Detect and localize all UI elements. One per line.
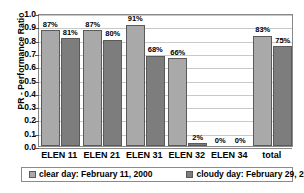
x-axis-category-labels: ELEN 11ELEN 21ELEN 31ELEN 32ELEN 34total [38, 150, 293, 164]
y-axis-tick-labels: 1.00.90.80.70.60.50.40.30.20.10.0 [12, 14, 36, 147]
y-axis-tick-label: 0.7 [12, 50, 36, 59]
bar-cloudy [273, 46, 292, 146]
y-axis-tick-label: 1.0 [12, 10, 36, 19]
chart-legend: clear day: February 11, 2000 cloudy day:… [21, 167, 293, 182]
x-axis-label: ELEN 31 [123, 150, 166, 160]
legend-entry-clear-day: clear day: February 11, 2000 [29, 170, 152, 179]
y-axis-tick-label: 0.5 [12, 76, 36, 85]
x-axis-label: ELEN 21 [81, 150, 124, 160]
x-axis-label: total [251, 150, 294, 160]
y-axis-tick-label: 0.4 [12, 90, 36, 99]
legend-entry-cloudy-day: cloudy day: February 29, 2000 [186, 170, 304, 179]
legend-label-clear-day: clear day: February 11, 2000 [39, 170, 152, 179]
bars-layer: 87%81%87%80%91%68%66%2%0%0%83%75% [39, 15, 292, 146]
bar-value-label: 83% [249, 26, 276, 34]
y-axis-tick-label: 0.2 [12, 116, 36, 125]
x-axis-label: ELEN 34 [208, 150, 251, 160]
bar-chart: PR - Performance Ratio 1.00.90.80.70.60.… [0, 0, 304, 193]
bar-clear [253, 36, 272, 146]
y-axis-tick-label: 0.1 [12, 129, 36, 138]
x-axis-label: ELEN 32 [166, 150, 209, 160]
tick-mark [35, 148, 39, 149]
legend-swatch-icon-cloudy-day [186, 171, 193, 178]
bar-group: 83%75% [39, 15, 294, 146]
y-axis-tick-label: 0.9 [12, 23, 36, 32]
plot-area: 87%81%87%80%91%68%66%2%0%0%83%75% [38, 14, 293, 147]
y-axis-tick-label: 0.3 [12, 103, 36, 112]
y-axis-tick-label: 0.6 [12, 63, 36, 72]
gridline [39, 148, 292, 149]
y-axis-tick-label: 0.8 [12, 36, 36, 45]
legend-swatch-icon-clear-day [29, 171, 36, 178]
bar-value-label: 75% [269, 37, 296, 45]
x-axis-label: ELEN 11 [38, 150, 81, 160]
y-axis-tick-label: 0.0 [12, 143, 36, 152]
legend-label-cloudy-day: cloudy day: February 29, 2000 [196, 170, 304, 179]
